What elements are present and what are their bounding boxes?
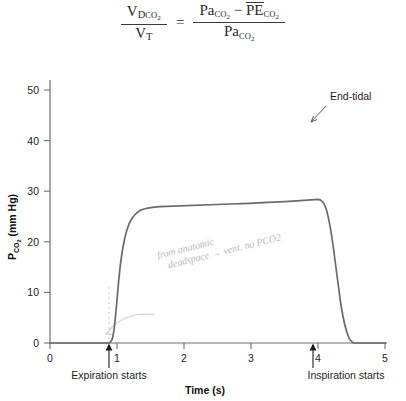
expiration-arrowhead	[106, 344, 113, 351]
x-axis-title: Time (s)	[185, 384, 225, 396]
y-axis-title: PCO2 (mm Hg)	[6, 194, 22, 260]
equation-left-fraction: VDCO2 VT	[121, 4, 167, 42]
pencil-arrow-head	[106, 327, 113, 335]
peco2-subscript: CO2	[264, 9, 280, 19]
x-tick-label-4: 4	[315, 352, 321, 364]
paco2-symbol-num: Pa	[199, 2, 214, 18]
equation-row: VDCO2 VT = PaCO2 − PECO2 PaCO2	[121, 3, 285, 43]
vd-symbol: V	[127, 3, 138, 19]
bohr-dead-space-equation: VDCO2 VT = PaCO2 − PECO2 PaCO2	[0, 2, 406, 43]
equation-left-denominator: VT	[129, 25, 158, 42]
equation-right-numerator: PaCO2 − PECO2	[193, 3, 285, 23]
y-tick-label-20: 20	[27, 236, 39, 248]
end-tidal-label: End-tidal	[330, 90, 371, 102]
y-axis-tick-labels: 0 10 20 30 40 50	[27, 84, 39, 349]
figure-page: VDCO2 VT = PaCO2 − PECO2 PaCO2	[0, 0, 406, 401]
svg-text:PCO2 (mm Hg): PCO2 (mm Hg)	[6, 194, 22, 260]
end-tidal-leader-line	[311, 106, 326, 122]
y-tick-label-10: 10	[27, 286, 39, 298]
pece-symbol: PE	[246, 3, 264, 19]
equals-sign: =	[174, 14, 186, 31]
paco2-subscript-den: CO2	[239, 31, 255, 41]
chart-svg: 0 10 20 30 40 50 0 1 2 3 4	[0, 62, 406, 401]
x-tick-label-2: 2	[181, 352, 187, 364]
y-tick-label-0: 0	[33, 337, 39, 349]
x-tick-label-3: 3	[248, 352, 254, 364]
x-tick-label-0: 0	[47, 352, 53, 364]
x-tick-label-1: 1	[114, 352, 120, 364]
vd-subscript-co2: CO2	[145, 10, 161, 20]
capnogram-curve	[50, 199, 386, 343]
expiration-starts-label: Expiration starts	[71, 369, 146, 381]
x-axis-tick-labels: 0 1 2 3 4 5	[47, 352, 388, 364]
capnogram-chart: 0 10 20 30 40 50 0 1 2 3 4	[0, 62, 406, 401]
y-tick-label-30: 30	[27, 185, 39, 197]
vt-subscript-t: T	[146, 31, 153, 42]
equation-right-denominator: PaCO2	[218, 23, 261, 43]
paco2-subscript-num: CO2	[214, 9, 230, 19]
equation-right-fraction: PaCO2 − PECO2 PaCO2	[193, 3, 285, 43]
y-tick-label-50: 50	[27, 84, 39, 96]
handwritten-deadspace-note: from anatomic deadspace → vent. no PCO2	[156, 220, 282, 272]
y-axis-ticks	[44, 90, 50, 343]
paco2-symbol-den: Pa	[224, 23, 239, 39]
x-tick-label-5: 5	[382, 352, 388, 364]
equation-left-numerator: VDCO2	[121, 4, 167, 24]
minus-sign: −	[234, 2, 242, 18]
y-tick-label-40: 40	[27, 135, 39, 147]
inspiration-arrowhead	[310, 344, 317, 351]
x-axis-ticks	[50, 343, 385, 349]
inspiration-starts-label: Inspiration starts	[307, 369, 384, 381]
vt-symbol: V	[135, 25, 146, 41]
